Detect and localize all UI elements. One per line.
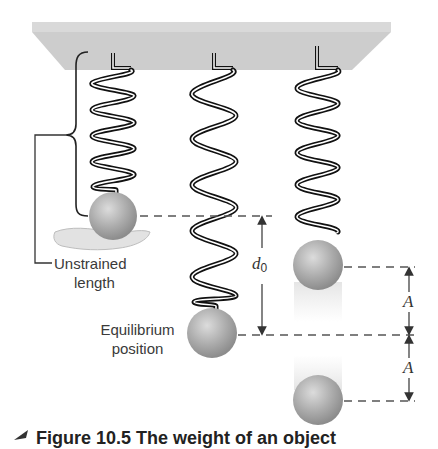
amplitude-label-upper: A [403, 292, 413, 312]
equilibrium-label: Equilibrium position [90, 320, 185, 358]
unstrained-label: Unstrained length [54, 254, 127, 292]
d0-subscript: 0 [261, 261, 268, 275]
ceiling-support [32, 22, 391, 70]
unstrained-label-line2: length [54, 273, 127, 292]
ball-unstrained [89, 192, 137, 240]
page-corner-mark [14, 430, 28, 440]
amplitude-label-lower: A [403, 358, 413, 378]
spring-unstrained [92, 53, 134, 196]
d0-symbol: d [252, 254, 261, 273]
unstrained-label-line1: Unstrained [54, 254, 127, 273]
unstrained-length-brace [66, 52, 88, 216]
figure-caption: Figure 10.5 The weight of an object [36, 428, 336, 449]
equilibrium-label-line1: Equilibrium [90, 320, 185, 339]
ball-equilibrium [187, 308, 237, 358]
spring-equilibrium [192, 53, 236, 312]
d0-label: d0 [252, 254, 267, 275]
equilibrium-label-line2: position [90, 339, 185, 358]
ball-bottom-position [293, 375, 343, 425]
ball-top-position [293, 240, 343, 290]
spring-oscillating [297, 46, 339, 248]
